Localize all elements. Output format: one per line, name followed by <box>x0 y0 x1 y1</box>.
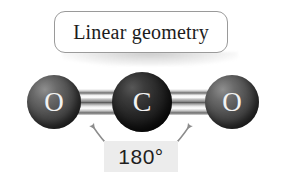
bond-angle-label: 180° <box>118 145 163 169</box>
figure-canvas: Linear geometry O C O 180° <box>0 0 282 181</box>
bond-angle-badge: 180° <box>104 141 178 172</box>
